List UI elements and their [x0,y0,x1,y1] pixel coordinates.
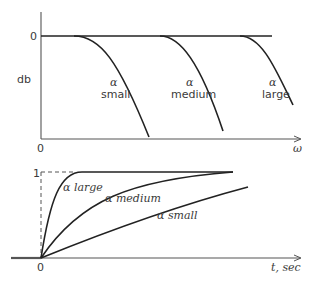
step-label-alpha-small: α small [157,209,198,222]
curve-label-medium: medium [171,88,216,101]
db-axis-label: db [17,73,31,86]
time-axis-label: t, sec [271,261,301,274]
curve-label-large: large [262,88,290,101]
top-plot: 0 db 0 ω α small α medium α large [17,12,302,155]
zero-db-label: 0 [30,30,37,43]
bandwidth-response-diagram: 0 db 0 ω α small α medium α large 1 0 t,… [0,0,315,289]
step-label-alpha-medium: α medium [105,192,161,205]
omega-axis-label: ω [293,142,302,155]
bottom-plot: 1 0 t, sec α large α medium α small [11,167,301,274]
unity-level-label: 1 [33,167,40,180]
step-label-alpha-large: α large [63,181,103,194]
bottom-origin-label: 0 [37,261,44,274]
curve-label-small: small [101,88,130,101]
top-origin-label: 0 [37,142,44,155]
